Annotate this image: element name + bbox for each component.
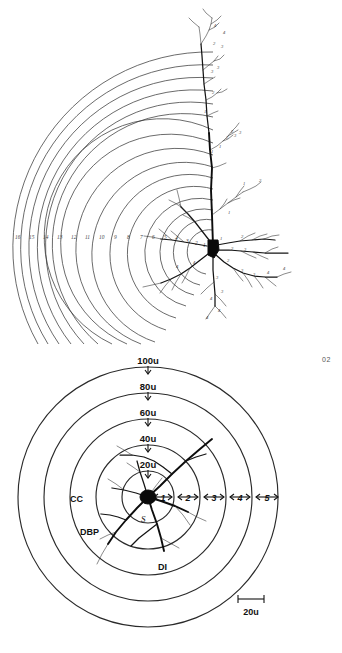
basal-dendrites [143,190,291,319]
svg-text:7: 7 [140,234,143,240]
branch-order-numerals: 1 2 3 3 2 3 4 4 1 1 2 3 2 3 1 1 2 1 2 2 … [176,23,286,320]
svg-text:1: 1 [243,181,245,186]
shell-label-3: 3 [211,493,216,503]
svg-text:3: 3 [221,44,224,49]
svg-text:4: 4 [283,266,286,271]
svg-text:1: 1 [228,210,230,215]
svg-text:3: 3 [216,275,219,280]
svg-text:2: 2 [259,178,262,183]
svg-text:3: 3 [217,65,220,70]
svg-text:11: 11 [85,234,90,240]
radius-label-80: 80u [140,381,157,392]
scale-bar: 20u [238,595,264,617]
radius-label-60: 60u [140,407,157,418]
annotation-cc: CC [70,494,83,504]
svg-text:3: 3 [234,133,237,138]
svg-text:2: 2 [195,240,198,246]
shell-label-2: 2 [184,493,190,503]
soma-03 [140,490,156,504]
svg-text:4: 4 [267,270,270,275]
concentric-arc-group [13,52,213,344]
svg-text:4: 4 [210,296,213,301]
svg-text:14: 14 [43,234,49,240]
panel-03-drawing: 100u 80u 60u 40u 20u 1 2 3 4 [0,345,342,653]
svg-text:1: 1 [219,144,221,149]
svg-text:4: 4 [223,30,226,35]
svg-text:2: 2 [227,258,230,263]
radius-label-40: 40u [140,433,157,444]
svg-text:10: 10 [99,234,105,240]
annotation-dbp: DBP [80,527,99,537]
svg-text:2: 2 [241,234,244,239]
svg-text:15: 15 [29,234,35,240]
annotation-group: CC DBP S DI [70,494,167,572]
annotation-soma: S [141,514,146,524]
radius-label-100: 100u [137,355,159,366]
radius-label-group: 100u 80u 60u 40u 20u [137,355,159,478]
scale-bar-label: 20u [243,607,259,617]
shell-label-4: 4 [236,493,242,503]
annotation-di: DI [158,562,167,572]
svg-text:3: 3 [239,130,242,135]
svg-text:3: 3 [221,289,224,294]
panel-02-drawing: 16 15 14 13 12 11 10 9 8 7 6 5 4 3 2 1 [0,0,342,345]
svg-text:1: 1 [211,149,213,154]
svg-text:13: 13 [57,234,63,240]
shell-interval-group: 1 2 3 4 5 [154,493,278,503]
svg-text:8: 8 [127,234,130,240]
svg-text:9: 9 [114,234,117,240]
figure-panel-02: 16 15 14 13 12 11 10 9 8 7 6 5 4 3 2 1 [0,0,342,345]
svg-text:12: 12 [71,234,77,240]
svg-text:2: 2 [212,90,215,95]
svg-text:2: 2 [213,41,216,46]
svg-text:3: 3 [211,69,214,74]
svg-text:4: 4 [206,315,209,320]
soma [208,240,219,258]
svg-text:4: 4 [176,264,179,269]
shell-label-5: 5 [264,493,270,503]
svg-text:1: 1 [220,236,222,241]
svg-text:1: 1 [204,109,206,114]
svg-text:4: 4 [218,308,221,313]
figure-panel-03: 100u 80u 60u 40u 20u 1 2 3 4 [0,345,342,653]
svg-text:3: 3 [241,268,244,273]
svg-text:16: 16 [15,234,21,240]
